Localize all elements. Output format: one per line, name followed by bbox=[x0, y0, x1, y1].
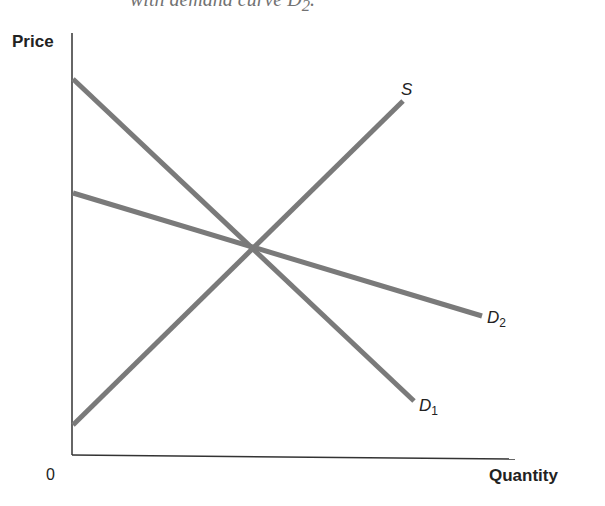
supply-curve bbox=[73, 101, 403, 425]
demand-curve-d2 bbox=[73, 193, 482, 316]
y-axis-label: Price bbox=[12, 32, 54, 52]
demand2-label: D2 bbox=[487, 308, 506, 330]
demand1-label: D1 bbox=[419, 396, 438, 418]
demand-curve-d1 bbox=[73, 79, 414, 401]
supply-demand-chart bbox=[0, 0, 605, 506]
x-axis bbox=[72, 455, 515, 459]
origin-label: 0 bbox=[46, 466, 55, 484]
supply-label: S bbox=[401, 80, 412, 100]
x-axis-label: Quantity bbox=[489, 466, 558, 486]
